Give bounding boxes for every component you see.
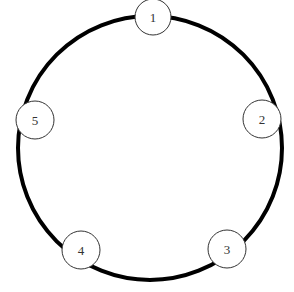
node-1: 1 [135, 0, 171, 35]
node-4: 4 [62, 231, 100, 269]
node-label: 2 [259, 112, 266, 127]
node-5: 5 [16, 101, 54, 139]
node-label: 1 [150, 10, 157, 25]
node-2: 2 [243, 100, 281, 138]
node-label: 5 [32, 113, 39, 128]
diagram-canvas: 1 2 3 4 5 [0, 0, 294, 292]
node-label: 3 [224, 242, 231, 257]
cycle-graph: 1 2 3 4 5 [0, 0, 294, 292]
node-3: 3 [208, 230, 246, 268]
node-label: 4 [78, 243, 85, 258]
